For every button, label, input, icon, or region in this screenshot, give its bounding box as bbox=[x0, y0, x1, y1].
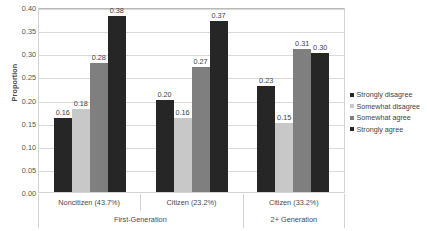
bar-value-label: 0.15 bbox=[277, 113, 291, 122]
x-axis-category-label: Citizen (23.2%) bbox=[140, 194, 242, 211]
bar-group: 0.160.180.280.38 bbox=[39, 9, 141, 192]
y-axis-tick-label: 0.10 bbox=[8, 142, 36, 151]
bar-slot: 0.27 bbox=[192, 9, 210, 192]
y-axis-tick-label: 0.05 bbox=[8, 165, 36, 174]
bar-slot: 0.38 bbox=[108, 9, 126, 192]
bar[interactable]: 0.38 bbox=[108, 16, 126, 192]
legend-label: Somewhat disagree bbox=[357, 101, 421, 113]
y-axis-tick-labels: 0.400.350.300.250.200.150.100.050.00 bbox=[8, 8, 36, 193]
bar-slot: 0.18 bbox=[72, 9, 90, 192]
bar-slot: 0.20 bbox=[156, 9, 174, 192]
bar-value-label: 0.37 bbox=[211, 11, 225, 20]
bar-value-label: 0.16 bbox=[56, 108, 70, 117]
bar[interactable]: 0.20 bbox=[156, 100, 174, 193]
bar-value-label: 0.18 bbox=[74, 99, 88, 108]
bar-slot: 0.30 bbox=[311, 9, 329, 192]
bar[interactable]: 0.37 bbox=[210, 21, 228, 192]
bar-value-label: 0.23 bbox=[259, 76, 273, 85]
y-axis-tick-label: 0.35 bbox=[8, 27, 36, 36]
x-axis-supercategory-labels: First-Generation2+ Generation bbox=[38, 211, 345, 228]
bar-groups: 0.160.180.280.380.200.160.270.370.230.15… bbox=[39, 9, 344, 192]
bar-slot: 0.16 bbox=[174, 9, 192, 192]
x-axis-supercategory-label: First-Generation bbox=[38, 211, 243, 228]
bar-group: 0.200.160.270.37 bbox=[141, 9, 243, 192]
legend-swatch-icon bbox=[350, 93, 354, 97]
bar-value-label: 0.31 bbox=[295, 39, 309, 48]
legend-label: Strongly disagree bbox=[357, 89, 413, 101]
bar[interactable]: 0.31 bbox=[293, 49, 311, 192]
bar[interactable]: 0.28 bbox=[90, 63, 108, 193]
bar-chart: Proportion 0.400.350.300.250.200.150.100… bbox=[0, 0, 427, 231]
legend-swatch-icon bbox=[350, 116, 354, 120]
y-axis-tick-label: 0.30 bbox=[8, 50, 36, 59]
legend-swatch-icon bbox=[350, 127, 354, 131]
bar-slot: 0.15 bbox=[275, 9, 293, 192]
legend-item[interactable]: Somewhat agree bbox=[350, 112, 426, 124]
bar-slot: 0.23 bbox=[257, 9, 275, 192]
y-axis-tick-label: 0.15 bbox=[8, 119, 36, 128]
bar-group-bars: 0.160.180.280.38 bbox=[39, 9, 141, 192]
legend-label: Somewhat agree bbox=[357, 112, 411, 124]
bar-value-label: 0.16 bbox=[175, 108, 189, 117]
bar[interactable]: 0.16 bbox=[54, 118, 72, 192]
bar-group-bars: 0.200.160.270.37 bbox=[141, 9, 243, 192]
bar[interactable]: 0.30 bbox=[311, 53, 329, 192]
y-axis-tick-label: 0.20 bbox=[8, 96, 36, 105]
legend-item[interactable]: Somewhat disagree bbox=[350, 101, 426, 113]
legend-swatch-icon bbox=[350, 104, 354, 108]
x-axis-supercategory-label: 2+ Generation bbox=[243, 211, 345, 228]
bar-group-bars: 0.230.150.310.30 bbox=[242, 9, 344, 192]
bar-value-label: 0.28 bbox=[92, 53, 106, 62]
chart-legend: Strongly disagreeSomewhat disagreeSomewh… bbox=[350, 89, 426, 135]
y-axis-tick-label: 0.00 bbox=[8, 189, 36, 198]
bar-group: 0.230.150.310.30 bbox=[242, 9, 344, 192]
bar-slot: 0.28 bbox=[90, 9, 108, 192]
bar-slot: 0.31 bbox=[293, 9, 311, 192]
x-axis-category-label: Citizen (33.2%) bbox=[243, 194, 345, 211]
plot-area: 0.160.180.280.380.200.160.270.370.230.15… bbox=[38, 8, 345, 193]
legend-item[interactable]: Strongly agree bbox=[350, 124, 426, 136]
bar-value-label: 0.27 bbox=[193, 57, 207, 66]
bar-slot: 0.37 bbox=[210, 9, 228, 192]
bar[interactable]: 0.16 bbox=[174, 118, 192, 192]
legend-item[interactable]: Strongly disagree bbox=[350, 89, 426, 101]
bar[interactable]: 0.18 bbox=[72, 109, 90, 192]
bar-slot: 0.16 bbox=[54, 9, 72, 192]
bar[interactable]: 0.23 bbox=[257, 86, 275, 192]
bar[interactable]: 0.27 bbox=[192, 67, 210, 192]
x-axis-category-label: Noncitizen (43.7%) bbox=[38, 194, 140, 211]
legend-label: Strongly agree bbox=[357, 124, 404, 136]
bar-value-label: 0.38 bbox=[110, 6, 124, 15]
y-axis-tick-label: 0.40 bbox=[8, 4, 36, 13]
y-axis-tick-label: 0.25 bbox=[8, 73, 36, 82]
bar-value-label: 0.30 bbox=[313, 43, 327, 52]
bar-value-label: 0.20 bbox=[157, 90, 171, 99]
bar[interactable]: 0.15 bbox=[275, 123, 293, 192]
x-axis-category-labels: Noncitizen (43.7%)Citizen (23.2%)Citizen… bbox=[38, 194, 345, 211]
